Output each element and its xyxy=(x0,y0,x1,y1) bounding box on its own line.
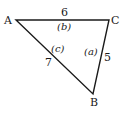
side-cb-name: (a) xyxy=(84,46,98,57)
side-ab-length: 7 xyxy=(45,56,52,69)
triangle-diagram: A C B 6 (b) (c) 7 (a) 5 xyxy=(0,0,122,121)
vertex-label-c: C xyxy=(111,14,119,27)
vertex-label-b: B xyxy=(90,96,98,109)
side-cb-length: 5 xyxy=(104,51,111,64)
side-ac-length: 6 xyxy=(61,6,68,19)
vertex-label-a: A xyxy=(3,14,13,27)
side-ac-name: (b) xyxy=(57,21,71,32)
side-ab-name: (c) xyxy=(51,43,65,54)
